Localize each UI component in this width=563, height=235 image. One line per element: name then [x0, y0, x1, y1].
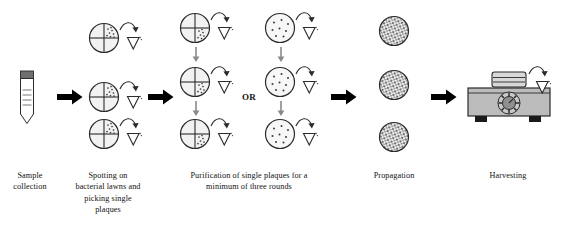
- pipette-tip-pick-9: [295, 114, 321, 148]
- caption-line: Spotting on: [56, 170, 160, 181]
- pipette-tip-pick-5: [210, 62, 236, 96]
- pipette-tip-pick-6: [210, 114, 236, 148]
- caption-line: Propagation: [356, 170, 432, 181]
- quadrant-plate-upper-right: [88, 81, 120, 113]
- or-label: OR: [242, 92, 256, 102]
- pipette-tip-pick-1: [119, 18, 145, 52]
- caption-line: Purification of single plaques for a: [167, 170, 331, 181]
- dotted-plate: [264, 118, 296, 150]
- pipette-tip-pick-8: [295, 62, 321, 96]
- round-arrow-down-4: [276, 101, 286, 117]
- caption-line: Sample: [2, 170, 58, 181]
- round-arrow-down-2: [191, 101, 201, 117]
- caption-line: picking single: [56, 193, 160, 204]
- dotted-plate: [264, 12, 296, 44]
- caption-harvesting: Harvesting: [470, 170, 546, 181]
- confluent-plate: [378, 69, 410, 101]
- flow-arrow-4: [431, 89, 457, 105]
- round-arrow-down-1: [191, 47, 201, 63]
- pipette-tip-harvest: [528, 62, 554, 96]
- confluent-plate: [378, 15, 410, 47]
- quadrant-plate-lower-right: [179, 66, 211, 98]
- flow-arrow-2: [148, 89, 174, 105]
- flow-arrow-1: [57, 89, 83, 105]
- quadrant-plate-upper-right: [88, 22, 120, 54]
- quadrant-plate-upper-right: [88, 118, 120, 150]
- caption-line: minimum of three rounds: [167, 181, 331, 192]
- pipette-tip-pick-3: [119, 114, 145, 148]
- sample-tube-icon: [14, 70, 40, 132]
- caption-propagation: Propagation: [356, 170, 432, 181]
- caption-sample-collection: Sample collection: [2, 170, 58, 193]
- pipette-tip-pick-4: [210, 8, 236, 42]
- figure-canvas: OR: [0, 0, 563, 235]
- pipette-tip-pick-2: [119, 77, 145, 111]
- flow-arrow-3: [331, 89, 357, 105]
- caption-purification: Purification of single plaques for a min…: [167, 170, 331, 193]
- quadrant-plate-lower-right: [179, 12, 211, 44]
- caption-spotting: Spotting on bacterial lawns and picking …: [56, 170, 160, 216]
- caption-line: bacterial lawns and: [56, 181, 160, 192]
- quadrant-plate-lower-right: [179, 118, 211, 150]
- round-arrow-down-3: [276, 47, 286, 63]
- dotted-plate: [264, 66, 296, 98]
- caption-line: Harvesting: [470, 170, 546, 181]
- caption-line: plaques: [56, 204, 160, 215]
- caption-line: collection: [2, 181, 58, 192]
- pipette-tip-pick-7: [295, 8, 321, 42]
- confluent-plate: [378, 121, 410, 153]
